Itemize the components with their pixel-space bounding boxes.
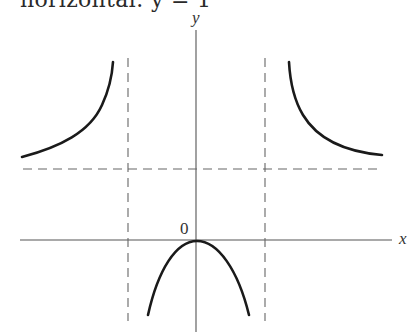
- x-axis-label: x: [399, 229, 407, 249]
- origin-label: 0: [180, 219, 189, 239]
- middle-branch-curve: [148, 241, 249, 315]
- y-axis-label: y: [192, 8, 200, 28]
- function-graph: [0, 0, 415, 332]
- left-branch-curve: [22, 62, 113, 157]
- right-branch-curve: [289, 62, 382, 155]
